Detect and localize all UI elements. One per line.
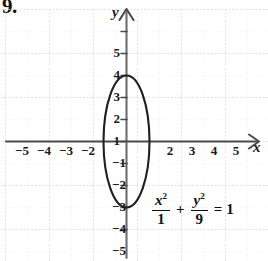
exponent-2-x: 2 [163,191,168,201]
y-tick-label-neg5: −5 [112,243,126,259]
denominator-1: 1 [152,210,170,228]
x-tick-label-neg4: −4 [35,143,53,159]
x-tick-label-neg3: −3 [57,143,75,159]
y-tick-label-3: 3 [114,89,121,105]
y-tick-label-neg4: −4 [112,221,126,237]
y-tick-label-2: 2 [114,111,121,127]
y-tick-label-neg3: −3 [112,199,126,215]
ellipse-equation: x2 1 + y2 9 = 1 [150,192,234,228]
graph-figure: 9. [0,0,268,261]
numerator-y-squared: y2 [191,192,208,210]
y-axis-label: y [112,4,119,21]
x-tick-label-neg2: −2 [79,143,97,159]
denominator-9: 9 [191,210,208,228]
x-tick-label-2: 2 [164,143,176,159]
x-tick-label-3: 3 [186,143,198,159]
y-tick-label-neg2: −2 [112,177,126,193]
fraction-x-squared-over-1: x2 1 [152,192,170,228]
x-tick-label-4: 4 [208,143,220,159]
numerator-x-squared: x2 [152,192,170,210]
variable-x: x [155,192,163,208]
y-tick-label-neg1: −1 [112,155,126,171]
exponent-2-y: 2 [200,191,205,201]
equals-sign: = [214,201,223,218]
x-tick-label-5: 5 [230,143,242,159]
y-tick-label-4: 4 [114,67,121,83]
right-hand-side: 1 [226,201,234,218]
x-tick-label-neg5: −5 [13,143,31,159]
x-axis-label: x [253,139,261,156]
y-tick-label-5: 5 [114,45,121,61]
plus-operator: + [176,201,185,218]
fraction-y-squared-over-9: y2 9 [191,192,208,228]
y-tick-label-1: 1 [114,133,121,149]
